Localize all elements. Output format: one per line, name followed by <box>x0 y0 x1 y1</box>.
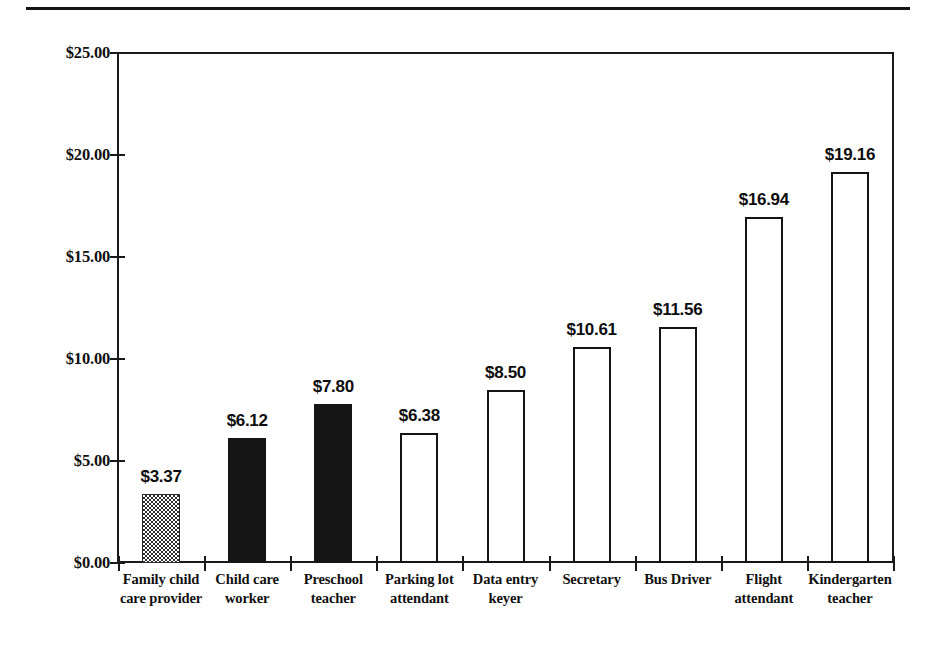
category-label-line: Bus Driver <box>644 570 711 589</box>
category-label-line: care provider <box>120 589 202 608</box>
bar-value-label: $3.37 <box>141 467 182 487</box>
category-label-line: keyer <box>473 589 538 608</box>
bar-value-label: $11.56 <box>653 300 702 320</box>
bar <box>228 438 266 563</box>
bar-value-label: $8.50 <box>485 363 526 383</box>
bar <box>142 494 180 563</box>
bar <box>314 404 352 563</box>
bar-value-label: $7.80 <box>313 377 354 397</box>
bar-chart-figure: $25.00$20.00$15.00$10.00$5.00$0.00 $3.37… <box>0 0 936 659</box>
category-label-line: Kindergarten <box>808 570 891 589</box>
category-label-line: Data entry <box>473 570 538 589</box>
category-label-line: attendant <box>385 589 454 608</box>
bar <box>659 327 697 563</box>
category-label-line: Parking lot <box>385 570 454 589</box>
x-axis-category-label: Family childcare provider <box>120 570 202 608</box>
bars-layer <box>0 0 936 659</box>
bar-value-label: $10.61 <box>567 320 617 340</box>
category-label-line: teacher <box>304 589 363 608</box>
bar <box>487 390 525 563</box>
bar <box>400 433 438 563</box>
x-axis-category-label: Kindergartenteacher <box>808 570 891 608</box>
bar <box>745 217 783 563</box>
category-label-line: attendant <box>734 589 793 608</box>
category-label-line: Child care <box>215 570 279 589</box>
x-axis-category-label: Preschoolteacher <box>304 570 363 608</box>
category-label-line: worker <box>215 589 279 608</box>
x-axis-category-label: Data entrykeyer <box>473 570 538 608</box>
category-label-line: Secretary <box>562 570 620 589</box>
x-axis-category-label: Bus Driver <box>644 570 711 589</box>
bar <box>831 172 869 563</box>
bar <box>573 347 611 563</box>
bar-value-label: $19.16 <box>825 145 875 165</box>
category-label-line: Preschool <box>304 570 363 589</box>
x-axis-category-label: Secretary <box>562 570 620 589</box>
bar-value-label: $6.38 <box>399 406 440 426</box>
category-label-line: Flight <box>734 570 793 589</box>
x-axis-category-label: Flightattendant <box>734 570 793 608</box>
x-axis-category-label: Child careworker <box>215 570 279 608</box>
bar-value-label: $6.12 <box>227 411 268 431</box>
category-label-line: teacher <box>808 589 891 608</box>
bar-value-label: $16.94 <box>739 190 789 210</box>
x-axis-category-label: Parking lotattendant <box>385 570 454 608</box>
category-label-line: Family child <box>120 570 202 589</box>
